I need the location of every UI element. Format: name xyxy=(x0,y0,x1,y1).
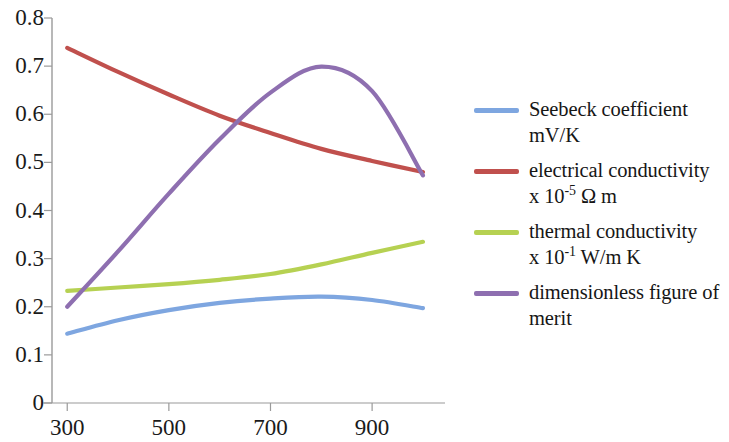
legend-label-line2: x 10-5 Ω m xyxy=(529,183,709,209)
y-axis-tick-label: 0.8 xyxy=(0,6,44,29)
legend-color-swatch xyxy=(474,108,519,113)
y-axis-tick-label: 0.3 xyxy=(0,247,44,270)
y-axis-tick-label: 0.6 xyxy=(0,102,44,125)
legend-exponent: -5 xyxy=(564,183,575,198)
legend-color-swatch xyxy=(474,291,519,296)
legend-label-line1: Seebeck coefficient xyxy=(529,98,688,120)
x-axis-tick-label: 900 xyxy=(337,416,407,439)
y-axis-tick-label: 0.2 xyxy=(0,295,44,318)
legend-item-1: electrical conductivityx 10-5 Ω m xyxy=(474,157,726,209)
x-axis-tick-label: 300 xyxy=(32,416,102,439)
x-axis-tick-label: 700 xyxy=(235,416,305,439)
chart-legend: Seebeck coefficientmV/Kelectrical conduc… xyxy=(474,96,726,340)
legend-label: electrical conductivityx 10-5 Ω m xyxy=(529,157,709,209)
legend-exponent: -1 xyxy=(564,244,575,259)
legend-item-3: dimensionless figure ofmerit xyxy=(474,279,726,331)
legend-label-line2: mV/K xyxy=(529,122,688,148)
y-axis-tick-label: 0.1 xyxy=(0,343,44,366)
y-axis-tick-label: 0.5 xyxy=(0,150,44,173)
series-line-0 xyxy=(67,297,423,334)
thermoelectric-properties-chart: 00.10.20.30.40.50.60.70.8 300500700900 S… xyxy=(0,0,729,442)
legend-color-swatch xyxy=(474,169,519,174)
legend-label-line2: x 10-1 W/m K xyxy=(529,244,697,270)
legend-label-line1: electrical conductivity xyxy=(529,159,709,181)
legend-label: dimensionless figure ofmerit xyxy=(529,279,719,331)
y-axis-tick-label: 0 xyxy=(0,391,44,414)
series-line-3 xyxy=(67,67,423,307)
legend-item-2: thermal conductivityx 10-1 W/m K xyxy=(474,218,726,270)
axes xyxy=(43,18,445,411)
legend-color-swatch xyxy=(474,230,519,235)
legend-label: thermal conductivityx 10-1 W/m K xyxy=(529,218,697,270)
series-line-1 xyxy=(67,48,423,172)
legend-item-0: Seebeck coefficientmV/K xyxy=(474,96,726,148)
legend-label: Seebeck coefficientmV/K xyxy=(529,96,688,148)
legend-label-line2: merit xyxy=(529,305,719,331)
y-axis-tick-label: 0.7 xyxy=(0,54,44,77)
legend-label-line1: dimensionless figure of xyxy=(529,281,719,303)
y-axis-tick-label: 0.4 xyxy=(0,199,44,222)
data-series-group xyxy=(67,48,423,334)
x-axis-tick-label: 500 xyxy=(134,416,204,439)
legend-label-line1: thermal conductivity xyxy=(529,220,697,242)
